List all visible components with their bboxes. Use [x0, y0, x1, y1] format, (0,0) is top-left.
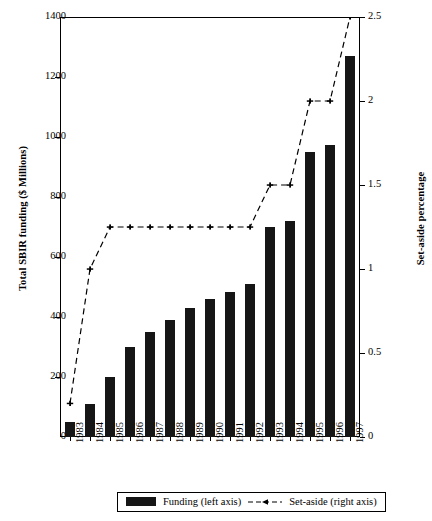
x-tick-mark	[190, 437, 191, 441]
legend-bar-label: Funding (left axis)	[163, 496, 241, 507]
right-axis-title: Set-aside percentage	[415, 119, 426, 319]
right-tick-label: 0.5	[368, 347, 408, 358]
x-tick-mark	[310, 437, 311, 441]
x-tick-mark	[330, 437, 331, 441]
chart-legend: Funding (left axis) Set-aside (right axi…	[117, 492, 386, 512]
bar	[345, 56, 355, 437]
bar	[285, 221, 295, 437]
bar	[65, 422, 75, 437]
x-tick-mark	[290, 437, 291, 441]
bar	[125, 347, 135, 437]
x-tick-mark	[270, 437, 271, 441]
x-tick-mark	[230, 437, 231, 441]
legend-line-label: Set-aside (right axis)	[289, 496, 376, 507]
bar	[325, 145, 335, 438]
x-tick-mark	[210, 437, 211, 441]
bar	[245, 284, 255, 437]
x-tick-mark	[350, 437, 351, 441]
bar	[305, 152, 315, 437]
right-tick-mark	[360, 269, 365, 270]
bar	[105, 377, 115, 437]
bar	[265, 227, 275, 437]
x-tick-mark	[90, 437, 91, 441]
x-tick-mark	[130, 437, 131, 441]
x-tick-mark	[70, 437, 71, 441]
bar	[225, 292, 235, 438]
right-tick-mark	[360, 17, 365, 18]
right-tick-label: 1	[368, 263, 408, 274]
sbir-funding-chart: Total SBIR funding ($ Millions) Set-asid…	[0, 0, 432, 521]
right-tick-mark	[360, 101, 365, 102]
right-tick-label: 2	[368, 95, 408, 106]
x-tick-mark	[170, 437, 171, 441]
bar	[85, 404, 95, 437]
right-tick-mark	[360, 353, 365, 354]
x-tick-mark	[110, 437, 111, 441]
bar	[165, 320, 175, 437]
bar	[205, 299, 215, 437]
bar-series	[60, 17, 360, 437]
x-tick-mark	[150, 437, 151, 441]
right-tick-label: 1.5	[368, 179, 408, 190]
right-tick-mark	[360, 185, 365, 186]
legend-bar-swatch	[126, 497, 156, 506]
right-tick-label: 2.5	[368, 11, 408, 22]
x-tick-mark	[250, 437, 251, 441]
bar	[185, 308, 195, 437]
right-tick-label: 0	[368, 431, 408, 442]
bar	[145, 332, 155, 437]
left-axis-title: Total SBIR funding ($ Millions)	[17, 119, 28, 319]
legend-line-swatch	[248, 497, 282, 507]
